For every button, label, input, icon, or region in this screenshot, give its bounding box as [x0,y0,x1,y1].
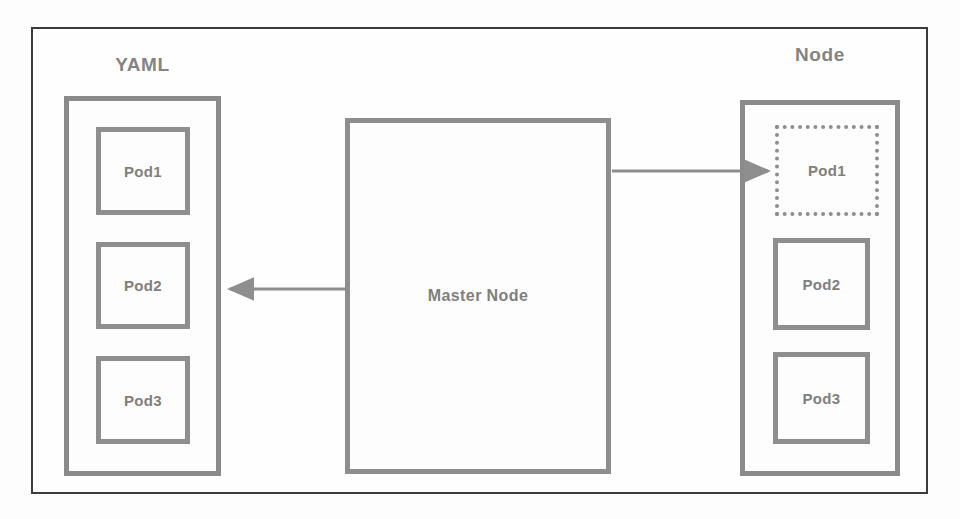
yaml-pod-3: Pod3 [96,356,190,444]
node-pod-3: Pod3 [773,352,870,444]
node-pod-1: Pod1 [775,125,879,216]
node-group-label: Node [740,44,900,66]
master-node-label: Master Node [428,287,528,305]
diagram-canvas: YAML Pod1 Pod2 Pod3 Master Node Node Pod… [0,0,960,519]
yaml-pod-2-label: Pod2 [124,277,162,294]
node-pod-2: Pod2 [773,238,870,330]
master-node-box: Master Node [345,118,611,474]
node-pod-3-label: Pod3 [803,390,841,407]
yaml-pod-1-label: Pod1 [124,163,162,180]
yaml-pod-1: Pod1 [96,127,190,215]
node-pod-1-label: Pod1 [808,162,846,179]
yaml-pod-3-label: Pod3 [124,392,162,409]
node-pod-2-label: Pod2 [803,276,841,293]
yaml-pod-2: Pod2 [96,242,190,329]
yaml-group-label: YAML [64,54,221,76]
